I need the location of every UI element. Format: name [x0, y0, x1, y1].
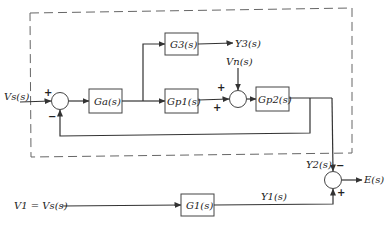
label-e: E(s): [363, 174, 384, 185]
wire-g3-to-y3: [198, 43, 233, 44]
summing-junction-3: [325, 172, 342, 189]
label-y1: Y1(s): [261, 191, 287, 202]
sign-sum3-minus: −: [336, 160, 344, 171]
sign-sum3-plus: +: [337, 187, 345, 198]
label-y2: Y2(s): [306, 159, 332, 170]
label-ga: Ga(s): [94, 96, 121, 107]
sign-sum1-minus: −: [48, 111, 56, 122]
wire-y2-to-sum3: [332, 98, 333, 171]
wire-gp1-to-sum2: [198, 99, 229, 100]
wire-branch-to-g3: [143, 44, 165, 101]
label-gp1: Gp1(s): [167, 96, 201, 107]
block-diagram: Vs(s) + − Ga(s) G3(s) Y3(s) Gp1(s) Vn(s)…: [0, 0, 389, 226]
wire-v1-to-g1: [62, 205, 181, 206]
sign-sum2-top-plus: +: [217, 82, 225, 93]
label-v1: V1 = Vs(s): [14, 200, 68, 211]
label-g1: G1(s): [186, 200, 213, 211]
summing-junction-2: [230, 91, 247, 108]
label-gp2: Gp2(s): [258, 94, 292, 105]
label-g3: G3(s): [170, 39, 197, 50]
label-vn: Vn(s): [226, 56, 253, 67]
sign-sum2-left-plus: +: [213, 102, 221, 113]
summing-junction-1: [52, 93, 69, 110]
label-y3: Y3(s): [235, 38, 261, 49]
sign-sum1-plus: +: [44, 87, 52, 98]
label-vs: Vs(s): [4, 91, 29, 102]
